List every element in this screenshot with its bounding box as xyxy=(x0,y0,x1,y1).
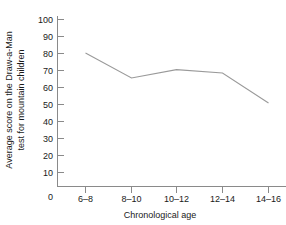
data-series-line xyxy=(86,53,269,103)
y-tick-label-20: 20 xyxy=(43,151,53,161)
x-tick-label-2: 10–12 xyxy=(164,194,189,204)
y-tick-label-40: 40 xyxy=(43,117,53,127)
chart-figure: 100 90 80 70 60 50 40 30 20 10 0 6–8 8–1… xyxy=(0,0,286,225)
x-tick-label-0: 6–8 xyxy=(78,194,93,204)
y-tick-label-70: 70 xyxy=(43,66,53,76)
y-tick-label-0: 0 xyxy=(48,192,53,202)
y-tick-label-30: 30 xyxy=(43,134,53,144)
y-tick-label-50: 50 xyxy=(43,100,53,110)
y-tick-label-90: 90 xyxy=(43,32,53,42)
y-axis-title-line1: Average score on the Draw-a-Man xyxy=(4,31,14,168)
x-tick-label-4: 14–16 xyxy=(256,194,281,204)
y-tick-label-60: 60 xyxy=(43,83,53,93)
x-tick-label-1: 8–10 xyxy=(121,194,141,204)
y-tick-label-80: 80 xyxy=(43,49,53,59)
y-tick-label-10: 10 xyxy=(43,168,53,178)
x-axis-title: Chronological age xyxy=(124,210,197,220)
y-axis-title-line2: test for mountain children xyxy=(16,49,26,150)
x-tick-label-3: 12–14 xyxy=(210,194,235,204)
x-tick-marks xyxy=(86,187,269,193)
line-chart-svg: 100 90 80 70 60 50 40 30 20 10 0 6–8 8–1… xyxy=(0,0,286,225)
y-tick-label-100: 100 xyxy=(38,15,53,25)
y-tick-marks xyxy=(58,20,64,173)
